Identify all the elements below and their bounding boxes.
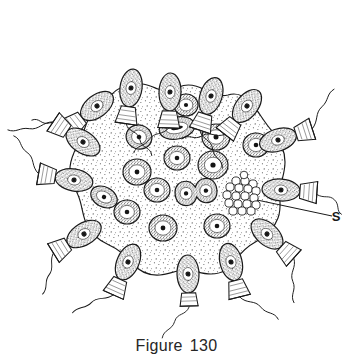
nucleus (208, 93, 213, 98)
nucleus (135, 170, 140, 175)
nucleus (161, 226, 166, 231)
nucleus (184, 103, 188, 107)
collar (37, 163, 58, 188)
label-s: S (332, 209, 341, 224)
nucleus (186, 272, 190, 276)
interior-cell (149, 215, 177, 241)
collar (299, 180, 317, 203)
collar (293, 118, 316, 144)
nucleus (168, 90, 172, 94)
flagellum (272, 258, 316, 303)
nucleus (275, 137, 280, 142)
interior-cell (123, 159, 151, 185)
interior-cell (204, 214, 230, 238)
flagellum (8, 103, 53, 148)
colonial-organism-diagram: S (0, 0, 353, 361)
interior-cell (164, 146, 190, 170)
flagellum (161, 307, 190, 338)
collar (225, 278, 250, 300)
interior-cell (144, 178, 170, 202)
interior-cell (114, 200, 140, 224)
nucleus (254, 143, 259, 148)
collar-cell (21, 215, 115, 294)
nucleus (175, 156, 180, 161)
nucleus (210, 162, 215, 167)
collar (180, 293, 198, 307)
nucleus (72, 178, 77, 183)
nucleus (279, 188, 283, 192)
nucleus (229, 260, 234, 265)
collar-cell (216, 236, 279, 330)
nucleus (125, 210, 130, 215)
figure-container: S Figure130 (0, 0, 353, 361)
caption-label: Figure (136, 337, 183, 354)
collar (158, 111, 181, 129)
interior-cell (198, 151, 228, 179)
nucleus (129, 86, 134, 91)
figure-caption: Figure130 (0, 337, 353, 355)
nucleus (155, 188, 160, 193)
flagellum (8, 136, 44, 174)
caption-number: 130 (190, 337, 218, 354)
nucleus (215, 224, 220, 229)
